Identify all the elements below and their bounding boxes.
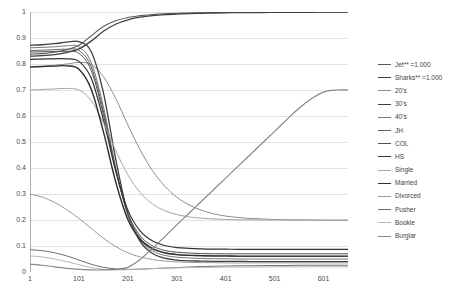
x-tick-label: 201 xyxy=(122,274,134,283)
series-line xyxy=(30,49,348,257)
legend-swatch-icon xyxy=(378,236,391,237)
plot-svg xyxy=(30,12,348,272)
legend-label: Jet** =1.000 xyxy=(395,61,431,69)
legend-item[interactable]: 20's xyxy=(378,84,453,97)
legend-swatch-icon xyxy=(378,156,391,157)
legend-label: 40's xyxy=(395,113,407,121)
legend-label: JH xyxy=(395,127,403,135)
series-line xyxy=(30,12,348,54)
legend-label: 30's xyxy=(395,100,407,108)
y-tick-label: 0.5 xyxy=(16,138,26,146)
y-tick-label: 0.2 xyxy=(16,216,26,224)
legend-swatch-icon xyxy=(378,143,391,144)
legend-label: COL xyxy=(395,140,408,148)
y-tick-label: 0.3 xyxy=(16,190,26,198)
legend-item[interactable]: 30's xyxy=(378,98,453,111)
legend-item[interactable]: Jet** =1.000 xyxy=(378,58,453,71)
legend-swatch-icon xyxy=(378,117,391,118)
legend-swatch-icon xyxy=(378,130,391,131)
legend-swatch-icon xyxy=(378,222,391,223)
legend-item[interactable]: 40's xyxy=(378,111,453,124)
legend-swatch-icon xyxy=(378,196,391,197)
legend-swatch-icon xyxy=(378,77,391,78)
plot-area xyxy=(30,12,348,272)
legend-label: Bookie xyxy=(395,219,415,227)
y-tick-label: 0.7 xyxy=(16,86,26,94)
legend-swatch-icon xyxy=(378,183,391,184)
series-line xyxy=(30,41,348,262)
line-chart: 00.10.20.30.40.50.60.70.80.91 1101201301… xyxy=(0,0,453,303)
legend-label: Married xyxy=(395,179,417,187)
legend-item[interactable]: COL xyxy=(378,137,453,150)
legend-item[interactable]: Divorced xyxy=(378,190,453,203)
legend-swatch-icon xyxy=(378,90,391,91)
chart-legend: Jet** =1.000Sharks** =1.00020's30's40'sJ… xyxy=(378,58,453,243)
y-tick-label: 0.9 xyxy=(16,34,26,42)
x-tick-label: 101 xyxy=(73,274,85,283)
series-line xyxy=(30,45,348,259)
y-tick-label: 0.1 xyxy=(16,242,26,250)
series-line xyxy=(30,59,348,250)
legend-swatch-icon xyxy=(378,170,391,171)
x-tick-label: 501 xyxy=(269,274,281,283)
legend-item[interactable]: Burglar xyxy=(378,229,453,242)
legend-label: Pusher xyxy=(395,206,416,214)
x-axis: 1101201301401501601 xyxy=(30,274,348,288)
legend-swatch-icon xyxy=(378,209,391,210)
x-tick-label: 601 xyxy=(318,274,330,283)
legend-item[interactable]: HS xyxy=(378,150,453,163)
series-line xyxy=(30,62,348,220)
legend-label: Burglar xyxy=(395,232,416,240)
x-tick-label: 401 xyxy=(220,274,232,283)
legend-item[interactable]: Sharks** =1.000 xyxy=(378,71,453,84)
series-line xyxy=(30,90,348,270)
legend-item[interactable]: JH xyxy=(378,124,453,137)
y-tick-label: 0.8 xyxy=(16,60,26,68)
series-line xyxy=(30,66,348,257)
legend-swatch-icon xyxy=(378,104,391,105)
y-tick-label: 1 xyxy=(22,8,26,16)
legend-label: Sharks** =1.000 xyxy=(395,74,442,82)
legend-label: 20's xyxy=(395,87,407,95)
legend-item[interactable]: Pusher xyxy=(378,203,453,216)
x-tick-label: 301 xyxy=(171,274,183,283)
series-line xyxy=(30,51,348,254)
legend-label: Divorced xyxy=(395,192,421,200)
y-tick-label: 0.6 xyxy=(16,112,26,120)
series-line xyxy=(30,88,348,220)
x-tick-label: 1 xyxy=(28,274,32,283)
legend-swatch-icon xyxy=(378,64,391,65)
legend-item[interactable]: Bookie xyxy=(378,216,453,229)
legend-label: HS xyxy=(395,153,404,161)
y-axis: 00.10.20.30.40.50.60.70.80.91 xyxy=(0,12,26,272)
y-tick-label: 0.4 xyxy=(16,164,26,172)
legend-item[interactable]: Single xyxy=(378,164,453,177)
legend-item[interactable]: Married xyxy=(378,177,453,190)
y-tick-label: 0 xyxy=(22,268,26,276)
legend-label: Single xyxy=(395,166,413,174)
